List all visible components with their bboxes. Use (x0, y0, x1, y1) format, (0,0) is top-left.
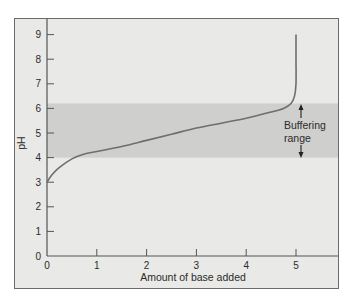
x-tick-label: 2 (144, 260, 150, 271)
y-axis-label: pH (15, 136, 27, 149)
titration-chart: 0123456789 012345 Amount of base added p… (0, 0, 353, 303)
y-tick-label: 6 (35, 103, 41, 114)
x-tick-label: 5 (293, 260, 299, 271)
annotation-line-1: Buffering (284, 119, 326, 131)
x-ticks: 012345 (44, 249, 299, 271)
x-tick-label: 0 (44, 260, 50, 271)
x-tick-label: 1 (94, 260, 100, 271)
x-axis-label: Amount of base added (140, 271, 246, 283)
y-tick-label: 9 (35, 29, 41, 40)
y-tick-label: 7 (35, 78, 41, 89)
y-tick-label: 1 (35, 226, 41, 237)
x-tick-label: 3 (194, 260, 200, 271)
y-tick-label: 5 (35, 128, 41, 139)
y-tick-label: 2 (35, 201, 41, 212)
y-tick-label: 0 (35, 251, 41, 262)
y-tick-label: 4 (35, 152, 41, 163)
annotation-line-2: range (284, 132, 311, 144)
y-tick-label: 3 (35, 177, 41, 188)
x-tick-label: 4 (243, 260, 249, 271)
y-tick-label: 8 (35, 54, 41, 65)
